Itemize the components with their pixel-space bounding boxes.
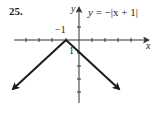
vertex-x-tick-label: −1 — [55, 24, 66, 35]
y-axis-label: y — [71, 3, 75, 14]
equation-label: y = −|x + 1| — [88, 6, 138, 18]
graph-left-branch — [13, 40, 66, 89]
x-axis-label: x — [146, 40, 150, 51]
y-tick-label: 1 — [69, 45, 74, 56]
problem-number: 25. — [9, 5, 23, 17]
graph-figure: 25. y = −|x + 1| y x −1 1 — [0, 0, 160, 113]
